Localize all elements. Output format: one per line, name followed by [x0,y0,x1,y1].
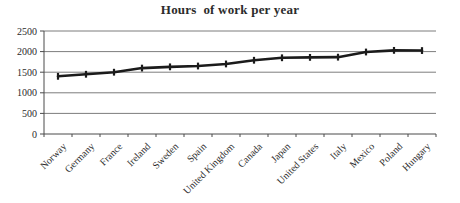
x-axis-label: Hungary [400,141,433,174]
y-axis-label: 2000 [17,46,37,57]
chart-svg: 05001000150020002500NorwayGermanyFranceI… [0,0,460,203]
x-axis-label: Germany [62,141,96,175]
y-axis-label: 1500 [17,67,37,78]
x-axis-label: Italy [328,141,349,162]
y-axis-label: 0 [32,129,37,140]
x-axis-label: Ireland [125,141,153,169]
chart-figure: Hours of work per year 05001000150020002… [0,0,460,203]
x-axis-label: Canada [235,140,264,169]
y-axis-label: 2500 [17,26,37,37]
x-axis-label: Mexico [347,141,376,170]
y-axis-label: 1000 [17,87,37,98]
x-axis-label: Spain [185,141,209,165]
x-axis-label: United Kingdom [181,140,237,196]
x-axis-label: France [97,140,124,167]
x-axis-label: Japan [269,141,293,165]
x-axis-label: Sweden [150,141,180,171]
y-axis-label: 500 [22,108,37,119]
